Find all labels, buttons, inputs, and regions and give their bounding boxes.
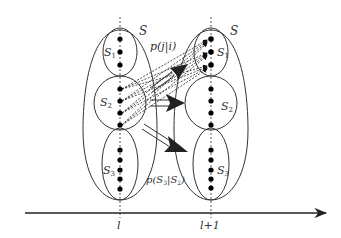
axis-label-l-plus-1: l+1 bbox=[200, 219, 220, 232]
cluster-arrow-S2-to-S3 bbox=[142, 124, 188, 152]
right-S3-label: S3 bbox=[217, 164, 229, 178]
state-transition-probability-label: p(j|i) bbox=[150, 40, 176, 54]
left-S3-label: S3 bbox=[103, 164, 115, 178]
left-S2-label: S2 bbox=[100, 96, 112, 110]
right-state-dots bbox=[208, 36, 214, 190]
left-outer-label: S bbox=[139, 24, 147, 38]
axis-label-l: l bbox=[117, 219, 121, 232]
right-outer-label: S bbox=[230, 24, 238, 38]
right-S2-label: S2 bbox=[221, 100, 233, 114]
right-S1-label: S1 bbox=[217, 46, 229, 60]
diagram-canvas: S S S1 S2 S3 S1 S2 S3 p(j|i) p(S3|S2) l … bbox=[0, 0, 341, 238]
left-state-dots bbox=[117, 36, 122, 191]
cluster-transition-probability-label: p(S3|S2) bbox=[146, 174, 185, 186]
left-S1-label: S1 bbox=[104, 46, 116, 60]
